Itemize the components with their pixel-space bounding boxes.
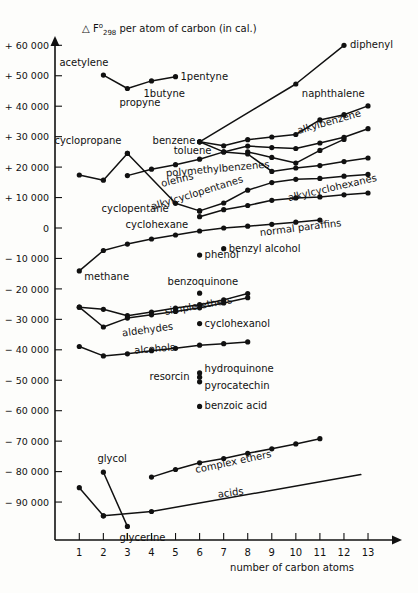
data-point bbox=[341, 159, 346, 164]
data-point bbox=[365, 103, 370, 108]
x-tick-label: 5 bbox=[172, 547, 178, 558]
x-tick-label: 12 bbox=[338, 547, 351, 558]
data-point bbox=[125, 173, 130, 178]
data-point bbox=[197, 253, 202, 258]
series-line-methanol-glycol-branch bbox=[79, 488, 103, 516]
point-label-1pentyne: 1pentyne bbox=[181, 71, 229, 82]
data-point bbox=[173, 232, 178, 237]
data-point bbox=[221, 143, 226, 148]
x-tick-label: 9 bbox=[269, 547, 275, 558]
data-point bbox=[293, 146, 298, 151]
data-point bbox=[269, 180, 274, 185]
point-label-glycol: glycol bbox=[97, 453, 126, 464]
series-label-alkylbenzene: alkylbenzene bbox=[296, 107, 362, 136]
data-point bbox=[293, 441, 298, 446]
data-point bbox=[269, 169, 274, 174]
y-tick-label: + 30 000 bbox=[5, 131, 49, 142]
chart-container: + 60 000+ 50 000+ 40 000+ 30 000+ 20 000… bbox=[0, 0, 418, 593]
data-point bbox=[125, 524, 130, 529]
y-tick-label: − 50 000 bbox=[5, 375, 49, 386]
data-point bbox=[101, 73, 106, 78]
y-tick-label: + 40 000 bbox=[5, 101, 49, 112]
data-point bbox=[269, 134, 274, 139]
x-axis-arrow-icon bbox=[392, 536, 402, 545]
data-point bbox=[293, 177, 298, 182]
data-point bbox=[365, 126, 370, 131]
data-point bbox=[77, 305, 82, 310]
data-point bbox=[293, 165, 298, 170]
y-tick-label: − 30 000 bbox=[5, 314, 49, 325]
y-tick-label: − 10 000 bbox=[5, 253, 49, 264]
x-tick-label: 3 bbox=[124, 547, 130, 558]
y-tick-label: + 60 000 bbox=[5, 40, 49, 51]
point-label-toluene: toluene bbox=[174, 145, 212, 156]
data-point bbox=[125, 86, 130, 91]
data-point bbox=[269, 198, 274, 203]
y-tick-label: − 40 000 bbox=[5, 344, 49, 355]
data-point bbox=[197, 214, 202, 219]
data-point bbox=[77, 172, 82, 177]
data-point bbox=[317, 436, 322, 441]
y-axis-arrow-icon bbox=[51, 36, 60, 46]
data-point bbox=[125, 242, 130, 247]
point-label-cyclopropane: cyclopropane bbox=[54, 135, 121, 146]
data-point bbox=[341, 137, 346, 142]
data-point bbox=[197, 291, 202, 296]
x-tick-label: 11 bbox=[314, 547, 327, 558]
series-label-acids: acids bbox=[217, 485, 244, 500]
y-tick-label: − 60 000 bbox=[5, 405, 49, 416]
chart-canvas: + 60 000+ 50 000+ 40 000+ 30 000+ 20 000… bbox=[0, 0, 418, 593]
data-point bbox=[149, 78, 154, 83]
data-point bbox=[245, 339, 250, 344]
x-tick-label: 1 bbox=[76, 547, 82, 558]
data-point bbox=[317, 140, 322, 145]
y-tick-label: + 50 000 bbox=[5, 70, 49, 81]
data-point bbox=[77, 344, 82, 349]
data-point bbox=[245, 144, 250, 149]
y-tick-label: − 70 000 bbox=[5, 436, 49, 447]
data-point bbox=[197, 370, 202, 375]
x-tick-label: 6 bbox=[196, 547, 202, 558]
y-tick-label: − 20 000 bbox=[5, 284, 49, 295]
x-tick-label: 4 bbox=[148, 547, 154, 558]
data-point bbox=[221, 207, 226, 212]
y-tick-label: − 90 000 bbox=[5, 497, 49, 508]
data-point bbox=[293, 161, 298, 166]
data-point bbox=[197, 208, 202, 213]
point-label-cyclohexanol: cyclohexanol bbox=[205, 318, 270, 329]
point-label-resorcin: resorcin bbox=[150, 371, 190, 382]
data-point bbox=[125, 151, 130, 156]
point-label-hydroquinone: hydroquinone bbox=[205, 363, 274, 374]
x-axis-title: number of carbon atoms bbox=[230, 562, 354, 573]
data-point bbox=[77, 268, 82, 273]
data-point bbox=[173, 74, 178, 79]
chart-title: △ Fo298 per atom of carbon (in cal.) bbox=[82, 22, 257, 37]
data-point bbox=[245, 224, 250, 229]
series-line-alkynes bbox=[103, 75, 175, 88]
point-label-pyrocatechin: pyrocatechin bbox=[205, 380, 270, 391]
data-point bbox=[197, 139, 202, 144]
data-point bbox=[245, 137, 250, 142]
point-label-naphthalene: naphthalene bbox=[302, 88, 365, 99]
y-tick-label: 0 bbox=[43, 223, 49, 234]
data-point bbox=[341, 43, 346, 48]
data-point bbox=[101, 178, 106, 183]
data-point bbox=[221, 341, 226, 346]
point-label-diphenyl: diphenyl bbox=[350, 39, 393, 50]
data-point bbox=[101, 470, 106, 475]
series-label-complex-ethers: complex ethers bbox=[194, 448, 272, 475]
data-point bbox=[197, 321, 202, 326]
data-point bbox=[221, 225, 226, 230]
point-label-cyclohexane: cyclohexane bbox=[126, 219, 189, 230]
data-point bbox=[221, 200, 226, 205]
y-tick-label: − 80 000 bbox=[5, 466, 49, 477]
point-label-benzoquinone: benzoquinone bbox=[168, 276, 239, 287]
data-point bbox=[101, 513, 106, 518]
x-tick-label: 2 bbox=[100, 547, 106, 558]
series-line-glycol-glycerine bbox=[103, 472, 127, 526]
data-point bbox=[101, 324, 106, 329]
data-point bbox=[125, 316, 130, 321]
point-label-1butyne: 1butyne bbox=[144, 88, 185, 99]
series-line-cyclopentane-line bbox=[79, 153, 127, 180]
data-point bbox=[149, 167, 154, 172]
